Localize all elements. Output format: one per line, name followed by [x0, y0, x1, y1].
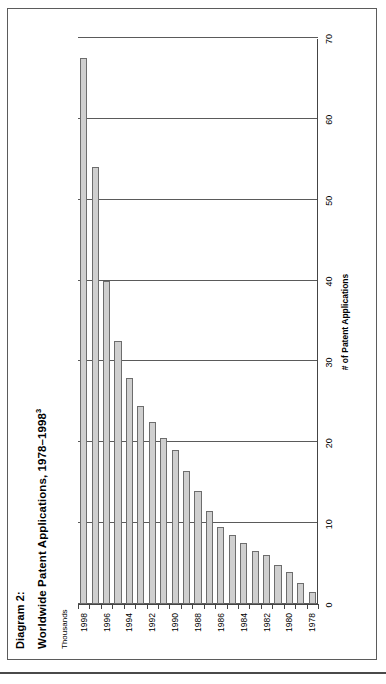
figure-label: Diagram 2:: [14, 591, 26, 649]
category-axis-tick: [272, 604, 273, 609]
category-axis-tick: [112, 604, 113, 609]
gridline: [78, 280, 318, 281]
category-axis-tick: [318, 604, 319, 609]
bar: [274, 565, 281, 604]
gridline: [78, 199, 318, 200]
bar: [297, 583, 304, 604]
value-axis-tick-label: 0: [324, 602, 334, 607]
bar: [263, 556, 270, 605]
category-axis-tick: [181, 604, 182, 609]
bar-chart: 010203040506070 197819801982198419861988…: [78, 39, 318, 605]
bar: [240, 543, 247, 604]
bar: [80, 58, 87, 604]
gridline: [78, 118, 318, 119]
value-axis-title: # of Patent Applications: [340, 274, 350, 371]
category-axis-tick-label: 1980: [284, 613, 294, 639]
figure-content: Diagram 2: Worldwide Patent Applications…: [8, 9, 376, 659]
category-axis-tick: [238, 604, 239, 609]
value-axis-tick-label: 10: [324, 519, 334, 529]
figure-title-text: Worldwide Patent Applications, 1978–1998: [36, 413, 48, 649]
bar: [103, 281, 110, 604]
value-axis-tick-label: 50: [324, 196, 334, 206]
bar: [252, 551, 259, 604]
value-axis-tick-label: 30: [324, 357, 334, 367]
bar: [160, 438, 167, 604]
bar: [286, 572, 293, 604]
category-axis-tick: [192, 604, 193, 609]
bar: [172, 450, 179, 604]
category-axis-tick: [158, 604, 159, 609]
value-axis-tick-label: 40: [324, 277, 334, 287]
bar: [149, 422, 156, 604]
figure-page: Diagram 2: Worldwide Patent Applications…: [0, 0, 386, 684]
category-axis-tick: [135, 604, 136, 609]
value-axis-tick-label: 60: [324, 115, 334, 125]
units-label: Thousands: [60, 609, 69, 649]
category-axis-tick-label: 1998: [79, 613, 89, 639]
category-axis-tick: [124, 604, 125, 609]
bar: [309, 592, 316, 604]
category-axis-tick-label: 1978: [307, 613, 317, 639]
category-axis-tick: [215, 604, 216, 609]
category-axis-tick: [204, 604, 205, 609]
category-axis-tick: [261, 604, 262, 609]
rotated-figure-wrapper: Diagram 2: Worldwide Patent Applications…: [8, 9, 376, 659]
category-axis-tick-label: 1990: [170, 613, 180, 639]
figure-title-footnote-marker: 3: [34, 409, 43, 413]
category-axis-tick-label: 1982: [262, 613, 272, 639]
plot-area: [78, 39, 318, 605]
category-axis-tick: [227, 604, 228, 609]
category-axis-tick: [249, 604, 250, 609]
category-axis-tick-label: 1986: [216, 613, 226, 639]
category-axis-tick: [295, 604, 296, 609]
category-axis-tick-label: 1992: [147, 613, 157, 639]
bar: [183, 471, 190, 604]
bar: [137, 406, 144, 604]
category-axis-tick: [89, 604, 90, 609]
page-bottom-rule: [0, 672, 386, 674]
category-axis-tick-label: 1988: [193, 613, 203, 639]
category-axis-tick: [147, 604, 148, 609]
bar: [217, 527, 224, 604]
category-axis-tick: [307, 604, 308, 609]
figure-title: Worldwide Patent Applications, 1978–1998…: [34, 409, 48, 649]
category-axis-tick-label: 1984: [239, 613, 249, 639]
value-axis-tick-label: 70: [324, 34, 334, 44]
bar: [114, 341, 121, 604]
category-axis-tick: [169, 604, 170, 609]
bar: [92, 167, 99, 604]
bar: [194, 491, 201, 604]
bar: [126, 378, 133, 604]
category-axis-tick-label: 1996: [102, 613, 112, 639]
category-axis-tick-label: 1994: [124, 613, 134, 639]
bar: [229, 535, 236, 604]
category-axis-tick: [284, 604, 285, 609]
bar: [206, 511, 213, 604]
category-axis-line: [317, 39, 318, 604]
gridline: [78, 37, 318, 38]
value-axis-tick-label: 20: [324, 438, 334, 448]
category-axis-tick: [101, 604, 102, 609]
category-axis-tick: [78, 604, 79, 609]
